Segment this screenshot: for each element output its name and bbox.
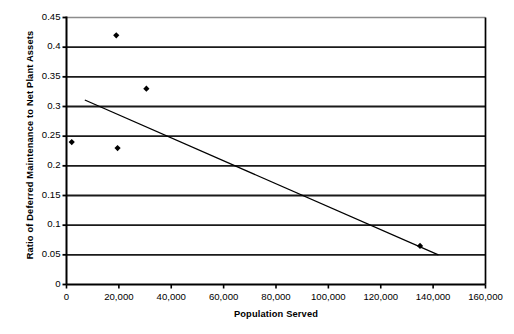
- data-markers-group: [69, 32, 423, 249]
- axis-frame-group: [67, 17, 486, 285]
- data-point-marker: [114, 145, 120, 151]
- data-point-marker: [69, 139, 75, 145]
- trendline-group: [85, 100, 439, 255]
- data-point-marker: [143, 86, 149, 92]
- plot-area: [0, 0, 514, 334]
- trendline: [85, 100, 439, 255]
- chart-figure: Ratio of Deferred Maintenance to Net Pla…: [0, 0, 514, 334]
- gridlines-group: [67, 47, 486, 255]
- data-point-marker: [113, 32, 119, 38]
